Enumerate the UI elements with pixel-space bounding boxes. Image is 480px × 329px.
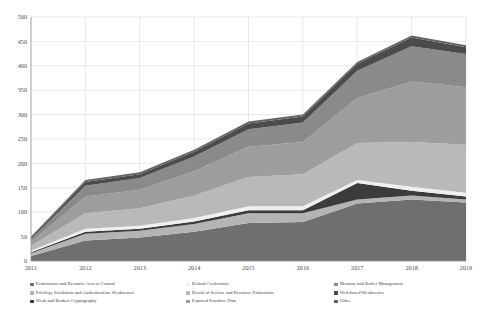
- legend-item-label: Privilege Escalation and Authentication …: [36, 289, 134, 298]
- chart-legend: Permissions and Resource Access ControlD…: [0, 278, 480, 314]
- legend-swatch-icon: [30, 300, 34, 304]
- legend-item-label: Denial of Service and Resource Exhaustio…: [192, 289, 274, 298]
- x-tick-label: 2019: [460, 264, 472, 271]
- legend-item[interactable]: Other: [334, 297, 454, 306]
- x-tick-label: 2014: [188, 264, 200, 271]
- legend-item-label: Web-based Weaknesses: [340, 289, 384, 298]
- legend-item-label: Memory and Buffer Management: [340, 280, 403, 289]
- x-tick-label: 2016: [297, 264, 309, 271]
- x-tick-label: 2013: [134, 264, 146, 271]
- legend-swatch-icon: [30, 283, 34, 287]
- x-tick-label: 2015: [242, 264, 254, 271]
- legend-swatch-icon: [186, 291, 190, 295]
- legend-item[interactable]: Web-based Weaknesses: [334, 289, 454, 298]
- y-tick-label: 100: [18, 208, 27, 215]
- legend-item-label: Default Credentials: [192, 280, 229, 289]
- y-tick-label: 200: [18, 160, 27, 167]
- y-tick-label: 500: [18, 13, 27, 20]
- y-tick-label: 350: [18, 86, 27, 93]
- y-tick-label: 450: [18, 38, 27, 45]
- legend-item[interactable]: Default Credentials: [186, 280, 328, 289]
- legend-item-label: Other: [340, 297, 351, 306]
- y-axis-tick-labels: 050100150200250300350400450500: [18, 13, 27, 264]
- y-tick-label: 150: [18, 184, 27, 191]
- x-tick-label: 2011: [25, 264, 37, 271]
- x-axis-tick-labels: 201120122013201420152016201720182019: [25, 264, 472, 271]
- legend-swatch-icon: [186, 300, 190, 304]
- y-tick-label: 400: [18, 62, 27, 69]
- legend-swatch-icon: [334, 300, 338, 304]
- chart-plot-svg: 050100150200250300350400450500 201120122…: [0, 0, 480, 276]
- chart-page: 050100150200250300350400450500 201120122…: [0, 0, 480, 329]
- legend-item[interactable]: Weak and Broken Cryptography: [30, 297, 180, 306]
- legend-swatch-icon: [334, 291, 338, 295]
- legend-swatch-icon: [30, 291, 34, 295]
- legend-item-label: Permissions and Resource Access Control: [36, 280, 115, 289]
- legend-item[interactable]: Permissions and Resource Access Control: [30, 280, 180, 289]
- legend-item-label: Weak and Broken Cryptography: [36, 297, 97, 306]
- legend-item[interactable]: Privilege Escalation and Authentication …: [30, 289, 180, 298]
- stacked-area-chart: 050100150200250300350400450500 201120122…: [0, 0, 480, 276]
- x-tick-label: 2012: [79, 264, 91, 271]
- y-tick-label: 300: [18, 111, 27, 118]
- legend-item[interactable]: Denial of Service and Resource Exhaustio…: [186, 289, 328, 298]
- legend-item-label: Exposed Sensitive Data: [192, 297, 237, 306]
- legend-item[interactable]: Exposed Sensitive Data: [186, 297, 328, 306]
- y-tick-label: 250: [18, 135, 27, 142]
- x-tick-label: 2018: [405, 264, 417, 271]
- legend-swatch-icon: [186, 283, 190, 287]
- legend-item[interactable]: Memory and Buffer Management: [334, 280, 454, 289]
- x-tick-label: 2017: [351, 264, 363, 271]
- legend-swatch-icon: [334, 283, 338, 287]
- y-tick-label: 50: [21, 233, 27, 240]
